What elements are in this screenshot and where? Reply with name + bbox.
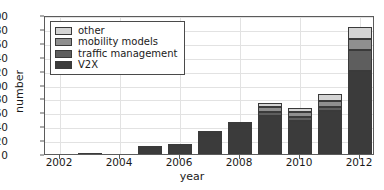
bar-segment [228,128,253,154]
y-axis-tick-label: 180 [0,25,8,36]
legend-item-label: V2X [78,60,98,70]
y-axis-tick-label: 120 [0,66,8,77]
bar-segment [288,117,313,120]
x-axis-tick-mark [179,155,180,159]
bar-segment [258,107,283,112]
bar-segment [288,121,313,154]
legend-swatch-icon [55,61,72,69]
y-axis-tick-label: 0 [0,150,8,161]
x-axis-tick-mark [359,155,360,159]
y-axis-tick-label: 160 [0,39,8,50]
bar-segment [168,146,193,154]
x-axis-tick-mark [59,155,60,159]
bar-segment [288,112,313,118]
legend-item-label: mobility models [78,37,158,47]
bar-segment [138,146,163,148]
bar-2010 [288,16,313,154]
bar-segment [288,108,313,111]
y-axis-title: number [13,52,26,132]
bar-segment [318,94,343,101]
bar-segment [348,71,373,154]
y-axis-tick-label: 20 [0,136,8,147]
legend-item: traffic management [55,48,178,60]
bar-segment [228,124,253,126]
bar-segment [318,107,343,110]
y-axis-tick-label: 80 [0,94,8,105]
bar-segment [228,126,253,128]
bar-segment [198,131,223,133]
legend-swatch-icon [55,50,72,58]
bar-chart-figure: number year 020406080100120140160180200 … [0,0,384,190]
x-axis-title: year [0,170,384,183]
bar-segment [318,101,343,107]
x-axis-tick-mark [119,155,120,159]
bar-segment [168,144,193,146]
bar-segment [348,50,373,71]
bar-segment [228,122,253,124]
legend-item: other [55,25,178,37]
y-axis-tick-label: 200 [0,11,8,22]
bar-2008 [228,16,253,154]
x-axis-tick-mark [239,155,240,159]
y-axis-tick-label: 60 [0,108,8,119]
y-axis-tick-label: 100 [0,80,8,91]
legend-swatch-icon [55,27,72,35]
bar-segment [258,116,283,154]
legend-item-label: other [78,26,105,36]
legend-item: V2X [55,60,178,72]
bar-2012 [348,16,373,154]
bar-segment [258,112,283,115]
x-axis-tick-mark [299,155,300,159]
bar-segment [198,136,223,154]
bar-2009 [258,16,283,154]
bar-2007 [198,16,223,154]
bar-segment [258,103,283,107]
y-axis-tick-label: 140 [0,52,8,63]
legend-swatch-icon [55,38,72,46]
bar-segment [318,111,343,154]
chart-legend: othermobility modelstraffic managementV2… [50,21,185,75]
legend-item: mobility models [55,37,178,49]
bar-segment [348,27,373,40]
bar-segment [138,148,163,154]
bar-segment [78,153,103,155]
bar-2011 [318,16,343,154]
legend-item-label: traffic management [78,49,178,59]
y-axis-tick-label: 40 [0,122,8,133]
bar-segment [348,39,373,49]
